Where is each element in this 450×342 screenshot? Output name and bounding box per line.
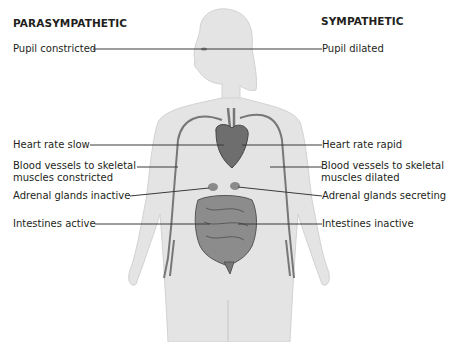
- label-blood-vessels-dilated-line1: Blood vessels to skeletal: [321, 160, 444, 172]
- label-intestines-inactive: Intestines inactive: [322, 218, 414, 230]
- label-heart-rate-slow: Heart rate slow: [13, 139, 90, 151]
- right-adrenal-gland: [230, 182, 240, 190]
- label-blood-vessels-constricted-line2: muscles constricted: [13, 172, 113, 184]
- label-pupil-constricted: Pupil constricted: [13, 43, 96, 55]
- sympathetic-heading: SYMPATHETIC: [321, 15, 404, 27]
- label-blood-vessels-constricted-line1: Blood vessels to skeletal: [13, 160, 136, 172]
- label-intestines-active: Intestines active: [13, 218, 96, 230]
- label-blood-vessels-dilated-line2: muscles dilated: [321, 172, 400, 184]
- parasympathetic-heading: PARASYMPATHETIC: [13, 17, 127, 29]
- label-pupil-dilated: Pupil dilated: [322, 43, 384, 55]
- body-silhouette: [129, 9, 330, 342]
- label-heart-rate-rapid: Heart rate rapid: [322, 139, 402, 151]
- label-adrenal-glands-secreting: Adrenal glands secreting: [322, 190, 446, 202]
- left-adrenal-gland: [208, 183, 218, 191]
- label-adrenal-glands-inactive: Adrenal glands inactive: [13, 190, 130, 202]
